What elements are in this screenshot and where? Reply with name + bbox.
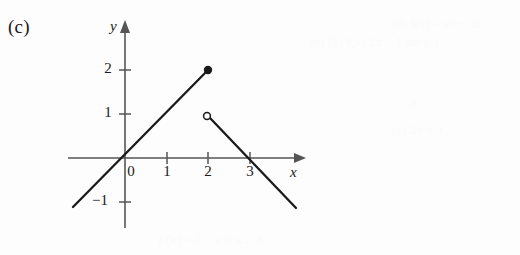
y-axis-label: y [110,18,117,35]
x-tick-label-2: 2 [196,163,220,180]
piecewise-function-plot [0,0,520,255]
y-tick-label-2: 2 [96,60,120,77]
part-label: (c) [8,16,30,38]
open-endpoint-marker [204,113,211,120]
closed-endpoint-marker [204,66,212,74]
y-tick-label-1: 1 [96,104,120,121]
curve-branch-rising [73,70,208,207]
y-tick-label-neg1: −1 [88,192,112,209]
x-tick-label-1: 1 [155,163,179,180]
origin-label: 0 [119,163,143,180]
x-tick-label-3: 3 [238,163,262,180]
x-axis-label: x [290,164,297,181]
figure-panel-c: (c) (d) f(x) = x² − 3x (a) (b) f(x) 2x −… [0,0,520,255]
y-axis [120,20,130,228]
x-axis [68,153,306,163]
